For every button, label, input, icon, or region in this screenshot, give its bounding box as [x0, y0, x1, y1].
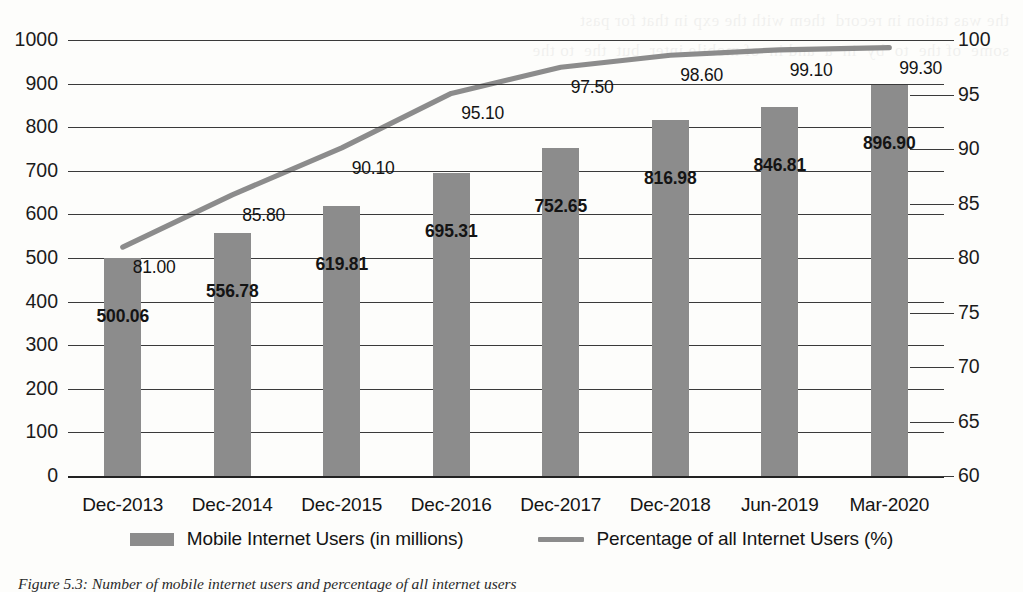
line-swatch-icon [538, 537, 584, 542]
y-axis-right-tick-label: 90 [958, 139, 1014, 159]
gridline [68, 302, 944, 303]
bar [433, 173, 470, 476]
y-axis-left-tick-label: 200 [2, 379, 58, 399]
bar-value-label: 846.81 [754, 155, 806, 176]
mobile-internet-users-chart: Mobile Internet Users (in millions) Perc… [0, 0, 1023, 592]
y-axis-right-tick-mark [910, 422, 954, 423]
line-value-label: 81.00 [133, 257, 176, 278]
y-axis-right-tick-label: 100 [958, 30, 1014, 50]
bar [323, 206, 360, 476]
gridline [68, 40, 944, 41]
line-value-label: 99.10 [790, 60, 833, 81]
x-axis-tick-label: Dec-2015 [301, 494, 382, 516]
y-axis-right-tick-label: 65 [958, 412, 1014, 432]
legend-item-percentage: Percentage of all Internet Users (%) [538, 528, 894, 550]
y-axis-left-tick-label: 400 [2, 292, 58, 312]
chart-legend: Mobile Internet Users (in millions) Perc… [0, 528, 1023, 550]
line-value-label: 98.60 [680, 65, 723, 86]
y-axis-right-tick-mark [910, 149, 954, 150]
y-axis-left-tick-label: 700 [2, 161, 58, 181]
x-axis-tick-label: Dec-2016 [411, 494, 492, 516]
y-axis-right-tick-mark [910, 40, 954, 41]
figure-caption: Figure 5.3: Number of mobile internet us… [18, 575, 1008, 592]
gridline [68, 127, 944, 128]
bar-value-label: 752.65 [535, 196, 587, 217]
bar-value-label: 896.90 [863, 133, 915, 154]
x-axis-tick-label: Jun-2019 [741, 494, 819, 516]
x-axis-tick-label: Dec-2013 [82, 494, 163, 516]
bar-value-label: 816.98 [644, 168, 696, 189]
x-axis-tick-label: Mar-2020 [849, 494, 929, 516]
bar-value-label: 500.06 [97, 306, 149, 327]
y-axis-left-tick-label: 800 [2, 117, 58, 137]
legend-label-mobile-users: Mobile Internet Users (in millions) [187, 528, 464, 550]
line-value-label: 95.10 [461, 103, 504, 124]
bar-value-label: 619.81 [316, 254, 368, 275]
x-axis-tick-label: Dec-2014 [192, 494, 273, 516]
legend-label-percentage: Percentage of all Internet Users (%) [597, 528, 894, 550]
line-value-label: 90.10 [352, 158, 395, 179]
gridline [68, 171, 944, 172]
x-axis-line [68, 476, 944, 478]
bar [104, 258, 141, 476]
y-axis-right-tick-mark [910, 313, 954, 314]
y-axis-right-tick-mark [910, 95, 954, 96]
line-value-label: 85.80 [242, 205, 285, 226]
gridline [68, 432, 944, 433]
legend-item-mobile-users: Mobile Internet Users (in millions) [130, 528, 464, 550]
x-axis-tick-label: Dec-2018 [630, 494, 711, 516]
y-axis-right-tick-label: 60 [958, 466, 1014, 486]
bar-value-label: 695.31 [425, 221, 477, 242]
gridline [68, 214, 944, 215]
gridline [68, 389, 944, 390]
y-axis-right-tick-label: 70 [958, 357, 1014, 377]
y-axis-right-tick-label: 95 [958, 85, 1014, 105]
gridline [68, 345, 944, 346]
bar-value-label: 556.78 [206, 281, 258, 302]
y-axis-right-tick-mark [910, 367, 954, 368]
y-axis-right-tick-mark [910, 204, 954, 205]
line-value-label: 99.30 [899, 58, 942, 79]
y-axis-right-tick-label: 80 [958, 248, 1014, 268]
gridline [68, 258, 944, 259]
bar-swatch-icon [130, 533, 174, 546]
gridline [68, 84, 944, 85]
y-axis-left-tick-label: 300 [2, 335, 58, 355]
y-axis-left-tick-label: 100 [2, 422, 58, 442]
y-axis-right-tick-label: 85 [958, 194, 1014, 214]
y-axis-right-tick-mark [910, 476, 954, 477]
y-axis-right-tick-label: 75 [958, 303, 1014, 323]
y-axis-left-tick-label: 0 [2, 466, 58, 486]
y-axis-left-tick-label: 500 [2, 248, 58, 268]
bar [214, 233, 251, 476]
y-axis-left-tick-label: 600 [2, 204, 58, 224]
plot-area [68, 40, 944, 476]
y-axis-right-tick-mark [910, 258, 954, 259]
line-value-label: 97.50 [571, 77, 614, 98]
y-axis-left-tick-label: 1000 [2, 30, 58, 50]
x-axis-tick-label: Dec-2017 [520, 494, 601, 516]
y-axis-left-tick-label: 900 [2, 74, 58, 94]
